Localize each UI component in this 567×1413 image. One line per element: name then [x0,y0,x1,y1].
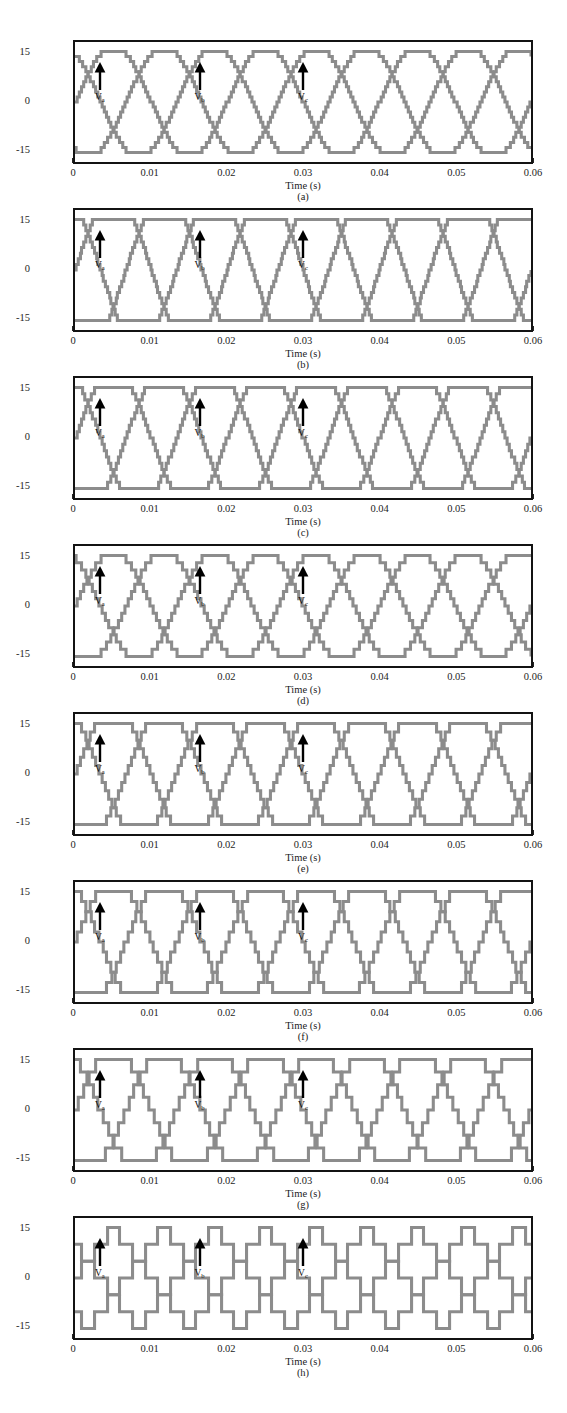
y-axis-tick-label: 0 [0,264,30,274]
x-axis-tick-label: 0.02 [204,839,248,850]
x-axis-tick-label: 0.01 [128,839,172,850]
x-axis-tick-label: 0.01 [128,503,172,514]
chart-panel-d: Voltage (kV)150-1500.010.020.030.040.050… [0,538,567,706]
x-axis-tick-label: 0.03 [281,335,325,346]
x-axis-tick-label: 0.01 [128,167,172,178]
x-axis-tick-label: 0 [51,671,95,682]
waveform-canvas [75,1218,531,1338]
waveform-canvas [75,546,531,666]
y-axis-tick-label: 0 [0,1104,30,1114]
y-axis-tick-label: -15 [0,985,30,995]
x-axis-tick-label: 0.03 [281,1343,325,1354]
plot-area [73,1216,533,1340]
waveform-canvas [75,210,531,330]
plot-area [73,544,533,668]
waveform-trace-va [75,723,531,824]
waveform-canvas [75,882,531,1002]
x-axis-tick-label: 0.05 [434,503,478,514]
x-axis-tick-label: 0.06 [511,671,555,682]
x-axis-tick-label: 0.06 [511,1175,555,1186]
panel-caption-e: (e) [73,863,533,874]
y-axis-tick-label: -15 [0,649,30,659]
x-axis-tick-label: 0.02 [204,1175,248,1186]
x-axis-tick-label: 0.05 [434,167,478,178]
x-axis-tick-label: 0.03 [281,167,325,178]
x-axis-tick-label: 0.04 [358,1343,402,1354]
chart-panel-b: Voltage (kV)150-1500.010.020.030.040.050… [0,202,567,370]
waveform-canvas [75,42,531,162]
y-axis-tick-label: 0 [0,936,30,946]
panel-caption-g: (g) [73,1199,533,1210]
y-axis-tick-label: 0 [0,600,30,610]
x-axis-label: Time (s) [73,1020,533,1031]
x-axis-tick-label: 0.02 [204,335,248,346]
panel-caption-a: (a) [73,191,533,202]
waveform-trace-va [75,1059,531,1160]
x-axis-tick-label: 0.01 [128,1007,172,1018]
x-axis-tick-label: 0 [51,503,95,514]
panel-caption-b: (b) [73,359,533,370]
chart-panel-f: Voltage (kV)150-1500.010.020.030.040.050… [0,874,567,1042]
x-axis-tick-label: 0.05 [434,671,478,682]
x-axis-tick-label: 0.01 [128,1343,172,1354]
x-axis-tick-label: 0.02 [204,1343,248,1354]
x-axis-tick-label: 0.05 [434,1007,478,1018]
x-axis-tick-label: 0.06 [511,167,555,178]
x-axis-tick-label: 0.04 [358,335,402,346]
x-axis-label: Time (s) [73,684,533,695]
waveform-trace-va [75,387,531,488]
y-axis-tick-label: 15 [0,47,30,57]
y-axis-tick-label: -15 [0,1321,30,1331]
x-axis-tick-label: 0.06 [511,503,555,514]
waveform-canvas [75,378,531,498]
x-axis-tick-label: 0.04 [358,839,402,850]
y-axis-tick-label: -15 [0,817,30,827]
x-axis-tick-label: 0 [51,1007,95,1018]
panel-caption-c: (c) [73,527,533,538]
y-axis-tick-label: 15 [0,1055,30,1065]
x-axis-label: Time (s) [73,180,533,191]
waveform-canvas [75,714,531,834]
plot-area [73,880,533,1004]
panel-caption-h: (h) [73,1367,533,1378]
x-axis-label: Time (s) [73,1188,533,1199]
x-axis-label: Time (s) [73,1356,533,1367]
x-axis-tick-label: 0.06 [511,335,555,346]
x-axis-tick-label: 0 [51,1343,95,1354]
plot-area [73,40,533,164]
chart-panel-c: Voltage (kV)150-1500.010.020.030.040.050… [0,370,567,538]
y-axis-tick-label: -15 [0,481,30,491]
x-axis-tick-label: 0 [51,335,95,346]
y-axis-tick-label: 15 [0,551,30,561]
x-axis-tick-label: 0.03 [281,1007,325,1018]
y-axis-tick-label: -15 [0,1153,30,1163]
x-axis-tick-label: 0.02 [204,671,248,682]
y-axis-tick-label: 15 [0,887,30,897]
y-axis-tick-label: -15 [0,145,30,155]
chart-panel-e: Voltage (kV)150-1500.010.020.030.040.050… [0,706,567,874]
y-axis-tick-label: 0 [0,768,30,778]
x-axis-tick-label: 0.06 [511,1343,555,1354]
chart-panel-h: Voltage (kV)150-1500.010.020.030.040.050… [0,1210,567,1378]
panel-caption-d: (d) [73,695,533,706]
x-axis-tick-label: 0 [51,167,95,178]
x-axis-tick-label: 0.01 [128,335,172,346]
x-axis-tick-label: 0.06 [511,1007,555,1018]
x-axis-label: Time (s) [73,852,533,863]
x-axis-tick-label: 0.03 [281,1175,325,1186]
chart-panel-g: Voltage (kV)150-1500.010.020.030.040.050… [0,1042,567,1210]
x-axis-tick-label: 0.04 [358,503,402,514]
x-axis-tick-label: 0.05 [434,1343,478,1354]
x-axis-label: Time (s) [73,348,533,359]
x-axis-tick-label: 0 [51,1175,95,1186]
x-axis-tick-label: 0.04 [358,671,402,682]
x-axis-tick-label: 0.03 [281,671,325,682]
y-axis-tick-label: 15 [0,383,30,393]
x-axis-tick-label: 0.05 [434,839,478,850]
x-axis-tick-label: 0.05 [434,335,478,346]
panel-caption-f: (f) [73,1031,533,1042]
x-axis-tick-label: 0.02 [204,1007,248,1018]
plot-area [73,376,533,500]
y-axis-tick-label: 15 [0,1223,30,1233]
x-axis-label: Time (s) [73,516,533,527]
